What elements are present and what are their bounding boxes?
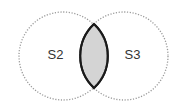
set-label-s2: S2 <box>48 47 64 62</box>
intersection-region-s2-s3 <box>80 24 108 88</box>
set-label-s3: S3 <box>125 47 141 62</box>
venn-diagram: S2 S3 <box>0 0 176 106</box>
